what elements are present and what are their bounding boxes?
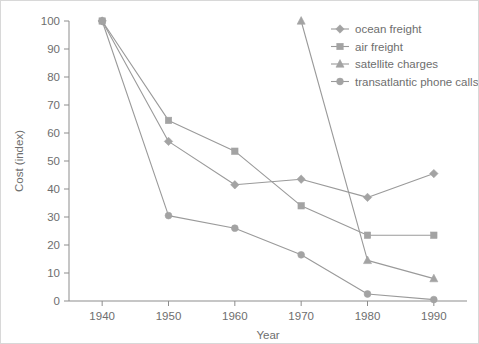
y-tick-label: 70 — [47, 99, 60, 111]
data-point — [232, 148, 238, 154]
data-point — [431, 232, 437, 238]
legend-marker-square-icon — [337, 43, 343, 49]
series-line — [102, 21, 434, 235]
data-point — [99, 18, 106, 25]
y-tick-label: 90 — [47, 43, 60, 55]
legend-item-satellite-charges[interactable]: satellite charges — [331, 58, 438, 70]
data-point — [364, 256, 372, 264]
chart-figure: 0102030405060708090100 19401950196019701… — [0, 0, 479, 344]
data-point — [364, 232, 370, 238]
x-tick-label: 1990 — [421, 310, 447, 322]
data-point — [430, 169, 438, 177]
x-tick-label: 1940 — [89, 310, 115, 322]
y-tick-label: 10 — [47, 267, 60, 279]
chart-legend: ocean freightair freightsatellite charge… — [331, 23, 479, 88]
legend-item-transatlantic-phone-calls[interactable]: transatlantic phone calls — [331, 76, 479, 88]
y-tick-label: 50 — [47, 155, 60, 167]
y-tick-label: 60 — [47, 127, 60, 139]
data-point — [165, 212, 172, 219]
x-axis-title: Year — [256, 329, 279, 341]
x-tick-label: 1970 — [288, 310, 314, 322]
legend-label: air freight — [355, 41, 404, 53]
x-tick-label: 1950 — [156, 310, 182, 322]
data-point — [231, 225, 238, 232]
data-point — [298, 203, 304, 209]
x-axis-ticks: 194019501960197019801990 — [89, 301, 446, 322]
data-point — [363, 193, 371, 201]
x-tick-label: 1980 — [355, 310, 381, 322]
data-point — [364, 291, 371, 298]
legend-label: satellite charges — [355, 58, 438, 70]
y-tick-label: 20 — [47, 239, 60, 251]
data-point — [297, 175, 305, 183]
legend-label: transatlantic phone calls — [355, 76, 479, 88]
legend-item-ocean-freight[interactable]: ocean freight — [331, 23, 422, 35]
legend-item-air-freight[interactable]: air freight — [331, 41, 404, 53]
data-point — [298, 251, 305, 258]
y-tick-label: 30 — [47, 211, 60, 223]
data-point — [164, 137, 172, 145]
y-tick-label: 0 — [54, 295, 60, 307]
legend-marker-diamond-icon — [336, 25, 344, 33]
data-point — [231, 181, 239, 189]
data-point — [297, 17, 305, 25]
legend-marker-circle-icon — [337, 78, 344, 85]
legend-marker-triangle-icon — [336, 60, 344, 68]
line-chart: 0102030405060708090100 19401950196019701… — [1, 1, 479, 344]
x-tick-label: 1960 — [222, 310, 248, 322]
series-satellite-charges — [297, 17, 438, 282]
y-tick-label: 40 — [47, 183, 60, 195]
data-point — [165, 117, 171, 123]
y-tick-label: 80 — [47, 71, 60, 83]
y-tick-label: 100 — [41, 15, 60, 27]
y-axis-title: Cost (index) — [13, 130, 25, 192]
legend-label: ocean freight — [355, 23, 422, 35]
data-point — [430, 296, 437, 303]
y-axis-ticks: 0102030405060708090100 — [41, 15, 69, 307]
